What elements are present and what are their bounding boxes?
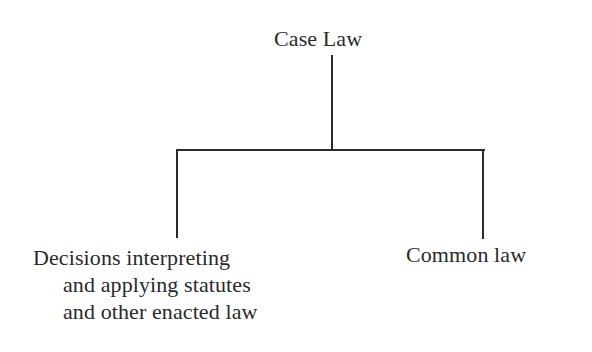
branch-horizontal-line <box>176 149 485 151</box>
child-node-line-2: and applying statutes <box>33 271 258 298</box>
right-branch-line <box>482 150 484 239</box>
child-node-line-3: and other enacted law <box>33 298 258 325</box>
child-node-decisions-interpreting-statutes: Decisions interpreting and applying stat… <box>33 244 258 325</box>
left-branch-line <box>176 149 178 238</box>
child-node-line-1: Decisions interpreting <box>33 244 258 271</box>
root-node-case-law: Case Law <box>274 28 362 50</box>
child-node-common-law: Common law <box>406 244 526 266</box>
root-connector-line <box>331 55 333 151</box>
